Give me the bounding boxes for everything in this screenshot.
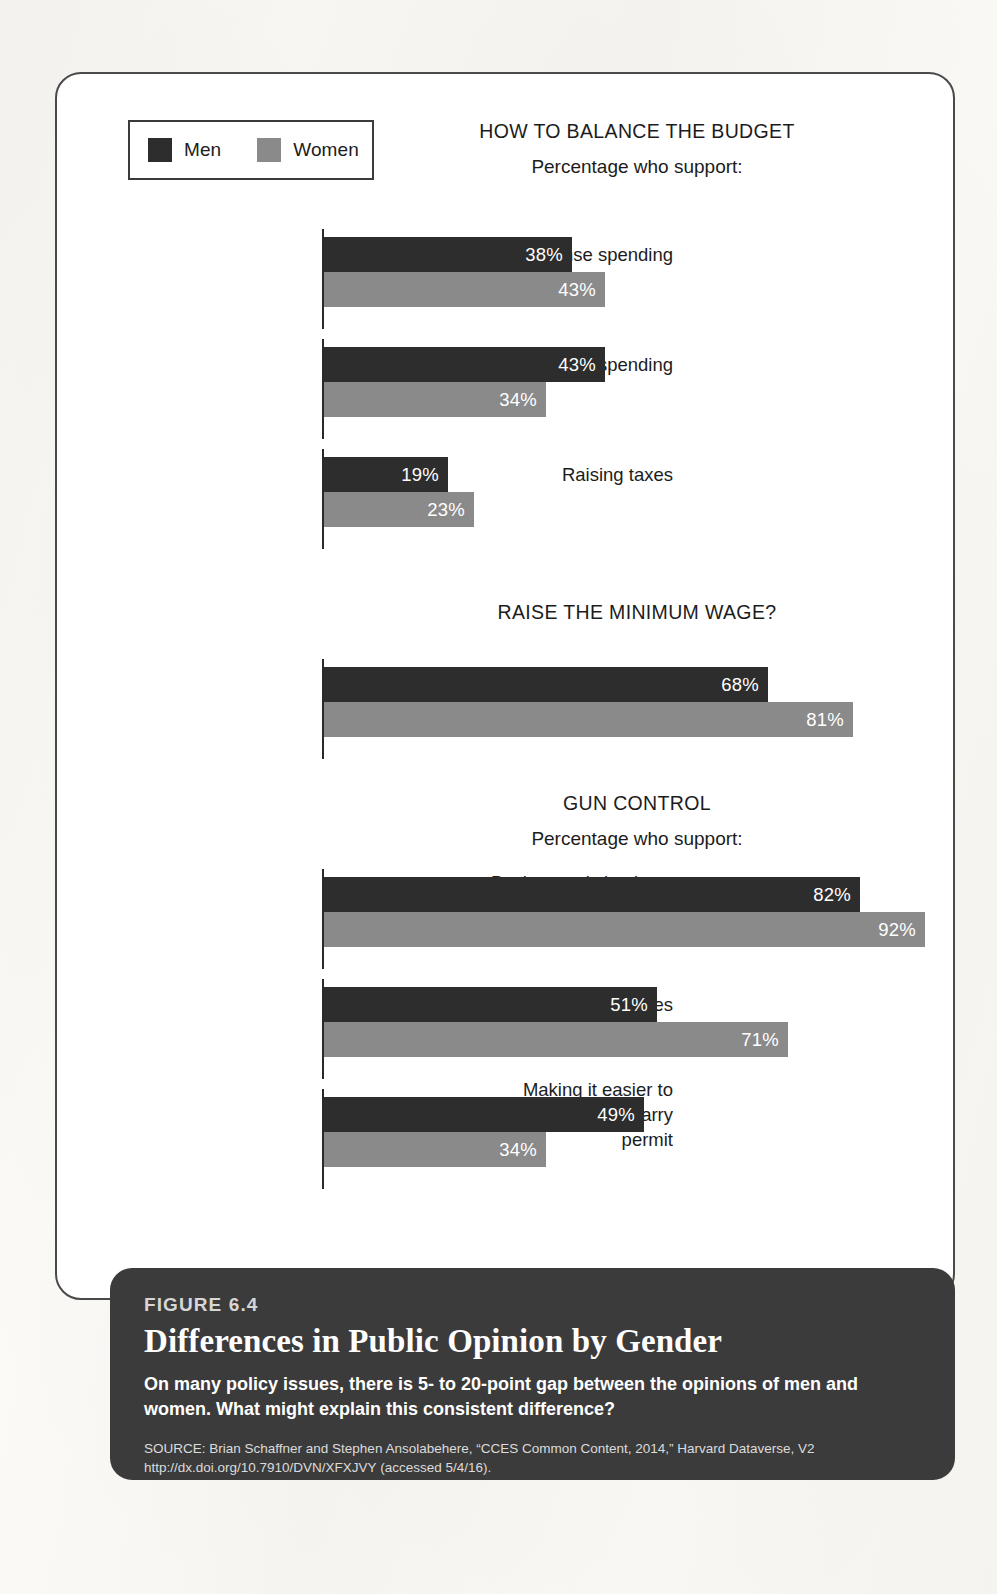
legend-swatch-men-icon (148, 138, 172, 162)
legend-label-men: Men (184, 139, 221, 161)
legend-swatch-women-icon (257, 138, 281, 162)
section-header-minimum-wage: RAISE THE MINIMUM WAGE? (357, 601, 917, 624)
category-label-taxes: Raising taxes (413, 462, 673, 487)
bar-value-background-checks-men: 82% (813, 884, 860, 906)
legend-label-women: Women (293, 139, 359, 161)
bar-value-domestic-women: 34% (499, 389, 546, 411)
bar-value-defense-women: 43% (558, 279, 605, 301)
bar-assault-rifles-women: 71% (324, 1022, 788, 1057)
bar-domestic-men: 43% (324, 347, 605, 382)
bar-concealed-carry-men: 49% (324, 1097, 644, 1132)
figure-title: Differences in Public Opinion by Gender (144, 1323, 921, 1360)
bar-concealed-carry-women: 34% (324, 1132, 546, 1167)
bar-row-taxes-women: 23% (324, 492, 474, 527)
bar-value-defense-men: 38% (525, 244, 572, 266)
bar-value-concealed-carry-men: 49% (597, 1104, 644, 1126)
bar-value-concealed-carry-women: 34% (499, 1139, 546, 1161)
bar-row-domestic-women: 34% (324, 382, 546, 417)
bar-value-assault-rifles-men: 51% (610, 994, 657, 1016)
bar-row-background-checks-women: 92% (324, 912, 925, 947)
bar-row-defense-women: 43% (324, 272, 605, 307)
bar-row-concealed-carry-women: 34% (324, 1132, 546, 1167)
figure-source: SOURCE: Brian Schaffner and Stephen Anso… (144, 1439, 884, 1477)
bar-taxes-men: 19% (324, 457, 448, 492)
section-subtitle-gun-control: Percentage who support: (357, 828, 917, 850)
section-header-gun-control: GUN CONTROL Percentage who support: (357, 792, 917, 850)
bar-value-favor-men: 68% (721, 674, 768, 696)
chart-legend: Men Women (128, 120, 374, 180)
bar-defense-men: 38% (324, 237, 572, 272)
bar-row-assault-rifles-women: 71% (324, 1022, 788, 1057)
bar-row-assault-rifles-men: 51% (324, 987, 657, 1022)
bar-value-domestic-men: 43% (558, 354, 605, 376)
bar-value-taxes-women: 23% (427, 499, 474, 521)
figure-description: On many policy issues, there is 5- to 20… (144, 1372, 884, 1422)
section-subtitle-budget: Percentage who support: (357, 156, 917, 178)
section-title-budget: HOW TO BALANCE THE BUDGET (357, 120, 917, 143)
section-title-gun-control: GUN CONTROL (357, 792, 917, 815)
bar-value-background-checks-women: 92% (878, 919, 925, 941)
bar-domestic-women: 34% (324, 382, 546, 417)
bar-row-defense-men: 38% (324, 237, 572, 272)
section-title-minimum-wage: RAISE THE MINIMUM WAGE? (357, 601, 917, 624)
figure-caption-panel: FIGURE 6.4 Differences in Public Opinion… (110, 1268, 955, 1480)
bar-assault-rifles-men: 51% (324, 987, 657, 1022)
legend-entry-men: Men (148, 138, 221, 162)
section-header-budget: HOW TO BALANCE THE BUDGET Percentage who… (357, 120, 917, 178)
bar-value-taxes-men: 19% (401, 464, 448, 486)
bar-value-assault-rifles-women: 71% (741, 1029, 788, 1051)
bar-row-taxes-men: 19% (324, 457, 448, 492)
bar-defense-women: 43% (324, 272, 605, 307)
bar-favor-men: 68% (324, 667, 768, 702)
bar-row-background-checks-men: 82% (324, 877, 860, 912)
legend-entry-women: Women (257, 138, 359, 162)
bar-row-concealed-carry-men: 49% (324, 1097, 644, 1132)
bar-row-favor-women: 81% (324, 702, 853, 737)
bar-taxes-women: 23% (324, 492, 474, 527)
bar-row-favor-men: 68% (324, 667, 768, 702)
bar-background-checks-men: 82% (324, 877, 860, 912)
bar-favor-women: 81% (324, 702, 853, 737)
figure-number: FIGURE 6.4 (144, 1294, 921, 1316)
bar-background-checks-women: 92% (324, 912, 925, 947)
bar-value-favor-women: 81% (806, 709, 853, 731)
figure-card: Men Women HOW TO BALANCE THE BUDGET Perc… (55, 72, 955, 1300)
bar-row-domestic-men: 43% (324, 347, 605, 382)
